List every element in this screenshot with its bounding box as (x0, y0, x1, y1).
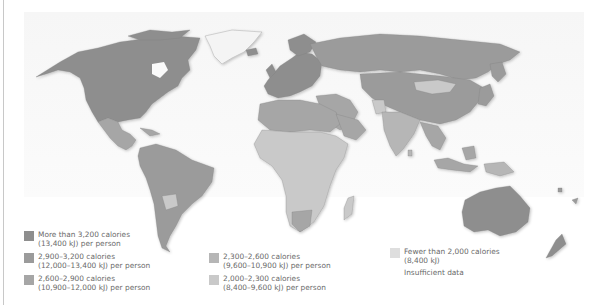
legend-label: 2,600–2,900 calories (38, 274, 150, 283)
region-china (360, 72, 484, 124)
region-greenland (205, 30, 262, 64)
region-india (382, 112, 420, 156)
region-russia (310, 34, 520, 80)
region-australia (462, 186, 530, 236)
legend-label: Fewer than 2,000 calories (404, 247, 500, 256)
legend-label: Insufficient data (404, 268, 464, 277)
legend-label: 2,000–2,300 calories (223, 274, 326, 283)
legend-item-2600-2900: 2,600–2,900 calories (10,900–12,000 kJ) … (24, 274, 150, 293)
legend-swatch (390, 248, 400, 258)
legend-label: 2,900–3,200 calories (38, 252, 150, 261)
legend-sublabel: (10,900–12,000 kJ) per person (38, 283, 150, 292)
legend-sublabel: (8,400–9,600 kJ) per person (223, 283, 326, 292)
legend-label: 2,300–2,600 calories (223, 252, 331, 261)
legend-swatch (390, 269, 400, 279)
legend-sublabel: (8,400 kJ) (404, 256, 500, 265)
region-central-america (98, 118, 136, 150)
legend-swatch (24, 231, 34, 241)
legend-sublabel: (12,000–13,400 kJ) per person (38, 261, 150, 270)
legend-swatch (24, 253, 34, 263)
legend-swatch (24, 275, 34, 285)
legend-item-fewer-than-2000: Fewer than 2,000 calories (8,400 kJ) (390, 247, 500, 266)
region-madagascar (344, 196, 354, 220)
region-indonesia (434, 158, 478, 172)
region-north-america (36, 36, 200, 122)
legend-item-2000-2300: 2,000–2,300 calories (8,400–9,600 kJ) pe… (209, 274, 326, 293)
legend-item-insufficient-data: Insufficient data (390, 268, 464, 279)
legend-swatch (209, 253, 219, 263)
legend-label: More than 3,200 calories (38, 230, 130, 239)
legend-sublabel: (9,600–10,900 kJ) per person (223, 261, 331, 270)
legend-swatch (209, 275, 219, 285)
legend-item-2300-2600: 2,300–2,600 calories (9,600–10,900 kJ) p… (209, 252, 331, 271)
region-new-zealand (546, 234, 566, 258)
legend-sublabel: (13,400 kJ) per person (38, 239, 130, 248)
legend-item-2900-3200: 2,900–3,200 calories (12,000–13,400 kJ) … (24, 252, 150, 271)
legend-item-more-than-3200: More than 3,200 calories (13,400 kJ) per… (24, 230, 130, 249)
